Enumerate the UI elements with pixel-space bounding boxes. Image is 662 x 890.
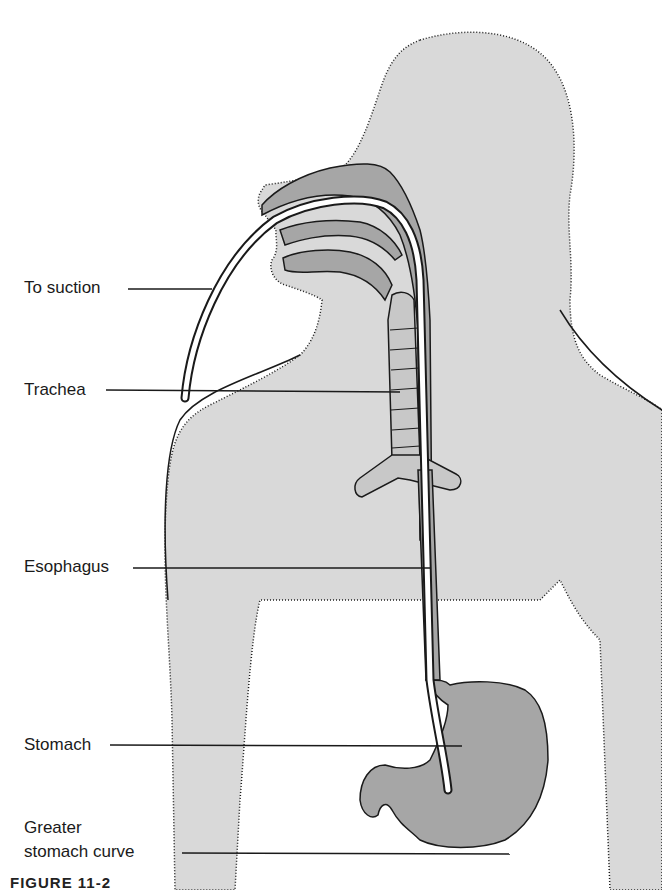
label-greater-curve-line1: Greater	[24, 818, 82, 838]
label-greater-curve-line2: stomach curve	[24, 842, 135, 862]
trachea	[388, 292, 420, 460]
stomach	[360, 680, 548, 848]
figure-caption: FIGURE 11-2	[10, 874, 111, 890]
label-trachea: Trachea	[24, 380, 86, 400]
label-to-suction: To suction	[24, 278, 101, 298]
ng-tube-diagram	[0, 0, 662, 890]
label-stomach: Stomach	[24, 735, 91, 755]
label-esophagus: Esophagus	[24, 557, 109, 577]
